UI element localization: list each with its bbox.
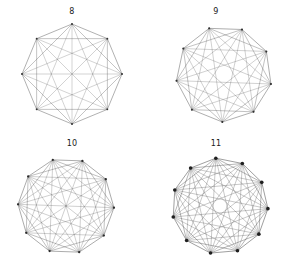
node-layer	[171, 156, 269, 254]
graph-edge	[216, 158, 243, 163]
graph-edge	[211, 182, 262, 253]
graph-node	[266, 207, 270, 211]
graph-edge	[191, 164, 243, 169]
graph-edge	[175, 190, 187, 241]
graph-edge	[176, 28, 209, 80]
graph-panel-10: 10	[0, 138, 144, 268]
graph-node	[221, 121, 223, 123]
graph-node	[191, 109, 193, 111]
graph-edge	[18, 204, 26, 233]
panel-title-8: 8	[0, 7, 144, 16]
graph-edge	[176, 81, 222, 122]
graph-node	[36, 108, 38, 110]
graph-edge	[106, 179, 114, 208]
graph-edge	[176, 81, 253, 112]
graph-edge	[242, 30, 266, 52]
graph-panel-9: 9	[144, 6, 288, 136]
graph-node	[121, 73, 123, 75]
panel-title-9: 9	[144, 7, 288, 16]
graph-node	[106, 38, 108, 40]
graph-node	[173, 188, 177, 192]
graph-edge	[28, 176, 104, 235]
panel-title-10: 10	[0, 139, 144, 148]
graph-edge	[18, 204, 79, 252]
graph-edge	[37, 39, 122, 74]
graph-edge	[176, 81, 191, 110]
graph-edge	[237, 164, 242, 251]
graph-edge	[237, 209, 267, 251]
complete-graph-8	[0, 16, 144, 134]
graph-node	[171, 215, 175, 219]
panel-title-11: 11	[144, 139, 288, 148]
graph-edge	[82, 161, 105, 179]
complete-graph-11	[144, 148, 288, 266]
graph-node	[52, 159, 54, 161]
graph-node	[71, 123, 73, 125]
graph-edge	[82, 161, 103, 236]
graph-node	[253, 111, 255, 113]
graph-edge	[28, 176, 49, 251]
graph-edge	[104, 208, 114, 236]
graph-node	[241, 29, 243, 31]
graph-edge	[222, 84, 271, 122]
graph-edge	[209, 28, 266, 51]
graph-node	[175, 80, 177, 82]
complete-graph-9	[144, 16, 288, 134]
graph-edge	[173, 182, 262, 217]
graph-edge	[18, 179, 106, 204]
graph-edge	[242, 164, 259, 235]
graph-edge	[175, 190, 238, 251]
graph-edge	[191, 168, 262, 182]
graph-edge	[209, 28, 253, 111]
graph-edge	[183, 49, 271, 84]
graph-node	[106, 108, 108, 110]
graph-node	[113, 207, 115, 209]
graph-edge	[183, 49, 222, 122]
graph-edge	[222, 30, 242, 122]
graph-edge	[209, 28, 222, 122]
graph-edge	[176, 51, 266, 80]
graph-edge	[50, 251, 80, 252]
graph-node	[265, 50, 267, 52]
graph-edge	[22, 74, 107, 109]
graph-edge	[187, 234, 259, 240]
edge-layer	[18, 160, 114, 252]
graph-edge	[254, 84, 271, 112]
graph-edge	[18, 176, 28, 204]
graph-edge	[254, 51, 267, 111]
graph-edge	[192, 84, 271, 110]
graph-node	[48, 250, 50, 252]
graph-node	[81, 160, 83, 162]
graph-edge	[53, 160, 83, 161]
graph-edge	[242, 164, 261, 183]
graph-edge	[26, 233, 49, 251]
graph-edge	[37, 39, 72, 124]
graph-edge	[175, 164, 243, 190]
graph-panel-11: 11	[144, 138, 288, 268]
graph-edge	[26, 208, 114, 233]
graph-edge	[37, 74, 122, 109]
graph-edge	[72, 24, 107, 109]
graph-edge	[176, 30, 242, 81]
graph-edge	[192, 110, 222, 122]
graph-edge	[53, 160, 114, 208]
graph-edge	[222, 112, 253, 122]
graph-edge	[79, 236, 104, 253]
graph-edge	[183, 30, 242, 49]
graph-edge	[192, 28, 209, 109]
graph-edge	[176, 81, 270, 84]
graph-edge	[262, 182, 268, 208]
graph-edge	[173, 217, 210, 253]
graph-edge	[72, 39, 107, 124]
graph-edge	[209, 28, 242, 29]
graph-node	[17, 203, 19, 205]
complete-graph-10	[0, 148, 144, 266]
graph-edge	[192, 110, 254, 112]
graph-node	[270, 83, 272, 85]
graph-node	[25, 232, 27, 234]
graph-edge	[28, 176, 106, 179]
graph-edge	[175, 158, 216, 190]
graph-node	[189, 166, 193, 170]
graph-edge	[209, 28, 271, 84]
graph-node	[214, 156, 218, 160]
